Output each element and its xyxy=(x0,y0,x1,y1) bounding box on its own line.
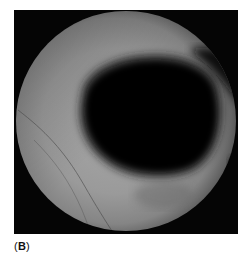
panel-label-letter: B xyxy=(18,240,26,252)
panel-label-close: ) xyxy=(26,240,30,252)
fluoroscopy-image xyxy=(14,10,238,234)
image-canvas xyxy=(14,10,238,234)
panel-label: (B) xyxy=(14,240,30,253)
